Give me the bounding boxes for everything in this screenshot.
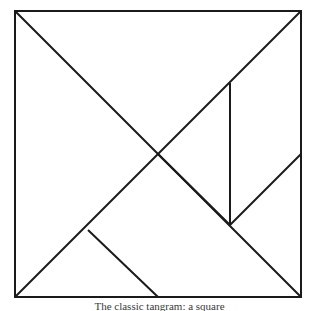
figure-caption: The classic tangram: a square — [0, 300, 319, 311]
tangram-figure: The classic tangram: a square — [0, 0, 319, 311]
tangram-diagram — [0, 0, 319, 311]
